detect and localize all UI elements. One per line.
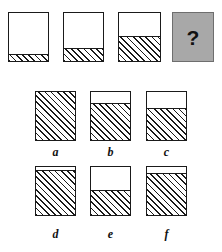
option-label-e: e	[90, 228, 131, 240]
hatched-fill	[147, 173, 186, 215]
option-box[interactable]	[35, 166, 76, 216]
option-box[interactable]	[146, 91, 187, 141]
hatched-fill	[119, 36, 160, 61]
option-label-f: f	[146, 228, 187, 240]
hatched-fill	[91, 103, 130, 140]
sequence-box	[63, 12, 104, 62]
option-box[interactable]	[90, 166, 131, 216]
question-box[interactable]: ?	[172, 12, 214, 62]
option-box[interactable]	[90, 91, 131, 141]
question-mark-icon: ?	[187, 27, 200, 48]
option-label-c: c	[146, 146, 187, 158]
option-label-b: b	[90, 146, 131, 158]
sequence-box	[8, 12, 49, 62]
hatched-fill	[91, 190, 130, 215]
option-label-d: d	[35, 228, 76, 240]
sequence-box	[118, 12, 161, 62]
puzzle-canvas: ?abcdef	[0, 0, 222, 252]
hatched-fill	[9, 54, 48, 61]
hatched-fill	[64, 48, 103, 61]
option-box[interactable]	[35, 91, 76, 141]
option-label-a: a	[35, 146, 76, 158]
hatched-fill	[36, 170, 75, 215]
option-box[interactable]	[146, 166, 187, 216]
hatched-fill	[36, 92, 75, 140]
hatched-fill	[147, 108, 186, 140]
